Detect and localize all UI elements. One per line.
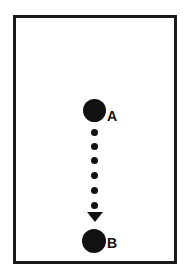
point-a-circle: [83, 99, 106, 122]
arrow-down-icon: [87, 212, 103, 222]
diagram-frame: [13, 15, 177, 264]
path-dot: [91, 157, 98, 164]
path-dot: [91, 187, 98, 194]
path-dot: [91, 202, 98, 209]
point-a-label: A: [107, 109, 117, 123]
path-dot: [91, 143, 98, 150]
point-b-label: B: [107, 236, 117, 250]
path-dot: [91, 172, 98, 179]
point-b-circle: [82, 229, 106, 253]
path-dot: [91, 129, 98, 136]
